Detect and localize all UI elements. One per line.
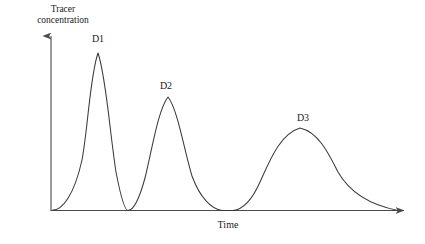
y-axis-title: Tracer concentration [8,4,118,26]
peak-label-d3: D3 [283,112,323,124]
x-axis-title: Time [190,219,266,231]
plot-canvas [0,0,425,244]
y-axis-title-line1: Tracer [8,4,118,15]
tracer-curve [53,53,398,211]
peak-label-d1: D1 [78,33,118,45]
tracer-dilution-figure: Tracer concentration Time D1 D2 D3 [0,0,425,244]
y-axis-title-line2: concentration [8,15,118,26]
peak-label-d2: D2 [146,80,186,92]
